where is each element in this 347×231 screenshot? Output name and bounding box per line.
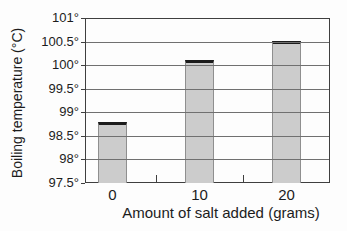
y-tick-label: 100° [0,58,79,72]
y-tick [81,159,85,160]
x-tick-label: 20 [267,187,307,203]
y-tick-label: 99.5° [0,82,79,96]
y-tick [81,183,85,184]
y-tick-label: 100.5° [0,35,79,49]
boiling-temperature-bar-chart: Boiling temperature (°C) Amount of salt … [0,0,347,231]
gridline [86,42,329,43]
y-tick-label: 98° [0,152,79,166]
y-tick-label: 101° [0,11,79,25]
gridline [86,159,329,160]
bar [185,60,214,183]
y-tick [81,136,85,137]
y-tick-label: 99° [0,105,79,119]
y-tick-label: 97.5° [0,176,79,190]
y-tick [81,18,85,19]
y-tick [81,89,85,90]
x-minor-tick [156,175,157,182]
y-tick [81,112,85,113]
y-tick [81,42,85,43]
x-tick-label: 0 [93,187,133,203]
gridline [86,89,329,90]
y-tick-label: 98.5° [0,129,79,143]
x-axis-title: Amount of salt added (grams) [95,204,347,221]
gridline [86,65,329,66]
x-minor-tick [243,175,244,182]
x-tick-label: 10 [180,187,220,203]
y-tick [81,65,85,66]
bar [98,122,127,183]
gridline [86,112,329,113]
gridline [86,136,329,137]
